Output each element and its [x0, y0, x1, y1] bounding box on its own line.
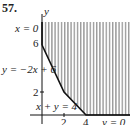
label-x-eq-0: x = 0 [15, 23, 38, 34]
label-y-eq-0: y = 0 [102, 117, 125, 125]
label-line2: x + y = 4 [36, 101, 77, 112]
x-tick-2: 2 [61, 117, 67, 125]
y-axis-label: y [44, 6, 49, 17]
y-tick-2: 2 [33, 87, 39, 98]
x-tick-4: 4 [83, 117, 89, 125]
label-line1: y = −2x + 6 [2, 64, 56, 75]
problem-number: 57. [2, 2, 17, 14]
y-tick-6: 6 [33, 38, 39, 49]
